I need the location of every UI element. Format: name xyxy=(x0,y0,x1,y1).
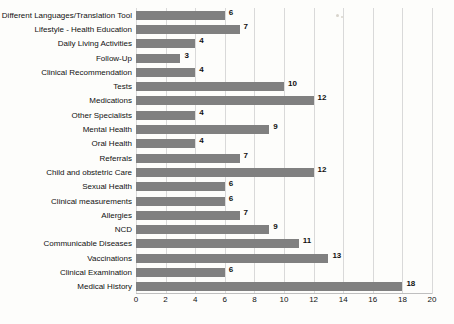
bar xyxy=(136,182,225,191)
bar-row: 6 xyxy=(136,268,432,277)
bar xyxy=(136,282,402,291)
x-tick-label: 8 xyxy=(252,295,256,304)
bar-value-label: 6 xyxy=(229,179,233,188)
category-label: Vaccinations xyxy=(87,254,132,263)
bar-value-label: 6 xyxy=(229,265,233,274)
plot-area: 67434101249471266791113618 xyxy=(136,8,432,294)
bar-row: 6 xyxy=(136,11,432,20)
bar-value-label: 10 xyxy=(288,79,297,88)
bar-row: 6 xyxy=(136,197,432,206)
bar xyxy=(136,254,328,263)
bar-value-label: 9 xyxy=(273,122,277,131)
bar xyxy=(136,211,240,220)
x-tick-label: 12 xyxy=(309,295,318,304)
bar-row: 4 xyxy=(136,39,432,48)
category-label: Medical History xyxy=(77,282,132,291)
bar xyxy=(136,54,180,63)
bar-value-label: 4 xyxy=(199,108,203,117)
bar-row: 4 xyxy=(136,111,432,120)
bar-row: 9 xyxy=(136,125,432,134)
bar-value-label: 4 xyxy=(199,136,203,145)
bar-value-label: 3 xyxy=(184,51,188,60)
bar-value-label: 7 xyxy=(244,208,248,217)
bar xyxy=(136,139,195,148)
bar xyxy=(136,25,240,34)
category-label: Clinical Recommendation xyxy=(41,68,132,77)
bar-value-label: 6 xyxy=(229,8,233,17)
bar xyxy=(136,111,195,120)
bar xyxy=(136,68,195,77)
bar-row: 12 xyxy=(136,168,432,177)
bar-series: 67434101249471266791113618 xyxy=(136,8,432,294)
x-tick-label: 14 xyxy=(339,295,348,304)
category-label: Clinical measurements xyxy=(51,197,132,206)
category-label: Allergies xyxy=(101,211,132,220)
bar-row: 18 xyxy=(136,282,432,291)
bar-row: 13 xyxy=(136,254,432,263)
bar-row: 12 xyxy=(136,96,432,105)
bar xyxy=(136,82,284,91)
x-tick-label: 10 xyxy=(280,295,289,304)
category-label: Other Specialists xyxy=(72,111,132,120)
paper-speck-secondary-icon xyxy=(341,16,343,18)
bar-row: 4 xyxy=(136,68,432,77)
bar xyxy=(136,168,314,177)
bar-value-label: 18 xyxy=(406,279,415,288)
bar xyxy=(136,225,269,234)
category-label: Tests xyxy=(113,82,132,91)
bar-row: 10 xyxy=(136,82,432,91)
bar-value-label: 7 xyxy=(244,22,248,31)
horizontal-bar-chart: Different Languages/Translation ToolLife… xyxy=(0,0,454,324)
category-label: Referrals xyxy=(100,154,132,163)
bar xyxy=(136,96,314,105)
bar-value-label: 9 xyxy=(273,222,277,231)
category-label: Mental Health xyxy=(83,125,132,134)
bar xyxy=(136,197,225,206)
bar-value-label: 13 xyxy=(332,251,341,260)
x-tick-label: 20 xyxy=(428,295,437,304)
bar-value-label: 11 xyxy=(303,236,311,245)
bar-value-label: 7 xyxy=(244,151,248,160)
bar xyxy=(136,11,225,20)
x-tick-label: 18 xyxy=(398,295,407,304)
category-label: Sexual Health xyxy=(82,182,132,191)
bar-row: 4 xyxy=(136,139,432,148)
category-label: Medications xyxy=(89,96,132,105)
x-tick-label: 6 xyxy=(223,295,227,304)
category-label: Daily Living Activities xyxy=(58,39,132,48)
bar xyxy=(136,239,299,248)
category-label: Different Languages/Translation Tool xyxy=(2,11,132,20)
gridline-20 xyxy=(432,8,433,294)
bar xyxy=(136,39,195,48)
category-label: Child and obstetric Care xyxy=(46,168,132,177)
paper-speck-icon xyxy=(336,14,339,17)
x-tick-label: 0 xyxy=(134,295,138,304)
x-tick-label: 4 xyxy=(193,295,197,304)
category-label: Clinical Examination xyxy=(60,268,132,277)
x-tick-label: 16 xyxy=(368,295,377,304)
bar-value-label: 12 xyxy=(318,93,327,102)
bar-row: 6 xyxy=(136,182,432,191)
bar-value-label: 6 xyxy=(229,194,233,203)
x-tick-label: 2 xyxy=(163,295,167,304)
bar-row: 7 xyxy=(136,211,432,220)
bar-row: 7 xyxy=(136,154,432,163)
bar-value-label: 4 xyxy=(199,36,203,45)
bar xyxy=(136,268,225,277)
category-label: Lifestyle - Health Education xyxy=(35,25,132,34)
category-label: NCD xyxy=(115,225,132,234)
x-axis-line xyxy=(136,293,432,294)
category-axis-labels: Different Languages/Translation ToolLife… xyxy=(0,8,132,294)
bar-row: 7 xyxy=(136,25,432,34)
category-label: Communicable Diseases xyxy=(44,239,132,248)
bar-row: 11 xyxy=(136,239,432,248)
value-axis-ticks: 02468101214161820 xyxy=(136,295,432,309)
bar-value-label: 4 xyxy=(199,65,203,74)
category-label: Follow-Up xyxy=(96,54,132,63)
bar xyxy=(136,154,240,163)
bar xyxy=(136,125,269,134)
category-label: Oral Health xyxy=(92,139,132,148)
bar-value-label: 12 xyxy=(318,165,327,174)
bar-row: 9 xyxy=(136,225,432,234)
bar-row: 3 xyxy=(136,54,432,63)
